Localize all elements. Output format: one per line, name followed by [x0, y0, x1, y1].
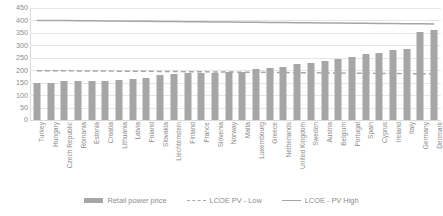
x-axis-label: Estonia	[94, 122, 101, 144]
solid-line-swatch-icon	[282, 200, 301, 201]
x-axis-label: Denmark	[437, 122, 443, 149]
x-axis-label: Czech Republic	[67, 122, 74, 168]
x-axis-label: Luxembourg	[259, 122, 266, 159]
line-series-group	[30, 8, 441, 120]
x-axis-label: Latvia	[135, 122, 142, 140]
x-axis-label: Slovenia	[218, 122, 225, 147]
y-axis-tick-250: 250	[4, 54, 28, 61]
x-axis-category-labels: TurkeyHungaryCzech RepublicRomaniaEstoni…	[30, 122, 441, 188]
legend-item-lcoe-pv-low[interactable]: LCOE PV - Low	[187, 196, 262, 205]
x-axis-label: Cyprus	[382, 122, 389, 143]
chart-legend: Retail power price LCOE PV - Low LCOE - …	[0, 192, 443, 208]
x-axis-label: Norway	[231, 122, 238, 144]
x-axis-label: Lithuania	[122, 122, 129, 149]
line-lcoe-pv-high	[37, 20, 434, 23]
x-axis-label: Ireland	[396, 122, 403, 142]
x-axis-label-text: Sweden	[313, 122, 320, 146]
x-axis-label-text: Turkey	[39, 122, 46, 142]
x-axis-label-text: Hungary	[53, 122, 60, 147]
y-axis-tick-450: 450	[4, 4, 28, 11]
x-axis-label: Malta	[245, 122, 252, 138]
x-axis-label-text: Malta	[245, 122, 252, 138]
x-axis-label-text: Croatia	[108, 122, 115, 143]
chart-container: 050100150200250300350400450 TurkeyHungar…	[0, 0, 443, 216]
x-axis-label: Liechtenstein	[176, 122, 183, 161]
legend-label: LCOE - PV High	[305, 196, 359, 205]
x-axis-label-text: Lithuania	[122, 122, 129, 149]
y-axis-tick-0: 0	[4, 116, 28, 123]
x-axis-label: Turkey	[39, 122, 46, 142]
legend-label: LCOE PV - Low	[210, 196, 262, 205]
y-axis-tick-300: 300	[4, 42, 28, 49]
bar-swatch-icon	[84, 198, 103, 203]
x-axis-label: Slovakia	[163, 122, 170, 147]
x-axis-label: Greece	[272, 122, 279, 144]
x-axis-label: Italy	[409, 122, 416, 134]
x-axis-label-text: Austria	[327, 122, 334, 143]
x-axis-label: Poland	[149, 122, 156, 143]
legend-label: Retail power price	[107, 196, 166, 205]
y-axis-tick-50: 50	[4, 104, 28, 111]
y-axis-tick-400: 400	[4, 17, 28, 24]
legend-item-retail-power-price[interactable]: Retail power price	[84, 196, 166, 205]
x-axis-label-text: Romania	[81, 122, 88, 148]
x-axis-label: United Kingdom	[300, 122, 307, 169]
legend-item-lcoe-pv-high[interactable]: LCOE - PV High	[282, 196, 359, 205]
x-axis-label-text: Czech Republic	[67, 122, 74, 168]
x-axis-label-text: Slovakia	[163, 122, 170, 147]
x-axis-label-text: Denmark	[437, 122, 443, 149]
x-axis-label: Belgium	[341, 122, 348, 146]
x-axis-label: Austria	[327, 122, 334, 143]
x-axis-label-text: Cyprus	[382, 122, 389, 143]
x-axis-label-text: Finland	[190, 122, 197, 144]
x-axis-label-text: Estonia	[94, 122, 101, 144]
dashed-line-swatch-icon	[187, 200, 206, 201]
x-axis-label: Sweden	[313, 122, 320, 146]
x-axis-label: France	[204, 122, 211, 143]
x-axis-label: Hungary	[53, 122, 60, 147]
x-axis-label-text: Spain	[368, 122, 375, 139]
y-axis-tick-200: 200	[4, 67, 28, 74]
x-axis-label: Finland	[190, 122, 197, 144]
x-axis-label-text: Norway	[231, 122, 238, 144]
y-axis-tick-350: 350	[4, 29, 28, 36]
x-axis-label: Spain	[368, 122, 375, 139]
x-axis-label-text: Latvia	[135, 122, 142, 140]
x-axis-label: Portugal	[355, 122, 362, 147]
x-axis-label-text: France	[204, 122, 211, 143]
x-axis-label: Germany	[423, 122, 430, 149]
x-axis-label-text: Portugal	[355, 122, 362, 147]
x-axis-label-text: Luxembourg	[259, 122, 266, 159]
x-axis-label-text: Slovenia	[218, 122, 225, 147]
x-axis-label-text: Italy	[409, 122, 416, 134]
x-axis-label-text: Greece	[272, 122, 279, 144]
y-axis-tick-150: 150	[4, 79, 28, 86]
plot-area	[30, 8, 441, 120]
x-axis-label-text: Netherlands	[286, 122, 293, 158]
y-axis-tick-100: 100	[4, 92, 28, 99]
x-axis-label: Romania	[81, 122, 88, 148]
x-axis-label-text: Poland	[149, 122, 156, 143]
x-axis-label-text: Germany	[423, 122, 430, 149]
x-axis-label-text: Ireland	[396, 122, 403, 142]
x-axis-label: Netherlands	[286, 122, 293, 158]
x-axis-label: Croatia	[108, 122, 115, 143]
x-axis-label-text: United Kingdom	[300, 122, 307, 169]
x-axis-label-text: Liechtenstein	[176, 122, 183, 161]
x-axis-label-text: Belgium	[341, 122, 348, 146]
x-axis-baseline	[30, 120, 441, 121]
line-lcoe-pv-low	[37, 71, 434, 74]
